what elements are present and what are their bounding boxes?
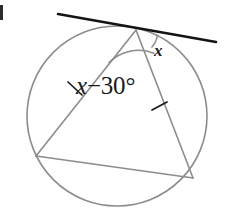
tangent-line <box>58 14 216 42</box>
tangent-angle-label: x <box>154 42 163 59</box>
triangle-bottom-chord <box>36 156 193 178</box>
angle-expression-value: 30 <box>101 72 126 99</box>
angle-expression-operator: − <box>87 72 101 99</box>
angle-expression-label: x−30° <box>76 73 135 98</box>
geometry-figure: x−30° x <box>0 0 227 212</box>
geometry-canvas <box>0 0 227 212</box>
degree-symbol-icon: ° <box>125 72 135 99</box>
angle-expression-variable: x <box>76 72 87 99</box>
